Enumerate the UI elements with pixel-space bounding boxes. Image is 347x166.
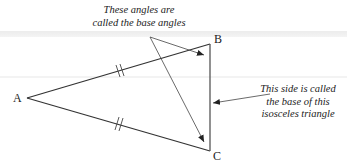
side-ab (27, 44, 210, 98)
arrow-to-angle-c (150, 37, 204, 142)
annotation-line: called the base angles (64, 17, 214, 30)
base-angles-annotation: These angles are called the base angles (64, 4, 214, 29)
annotation-line: This side is called (252, 83, 344, 96)
vertex-label-c: C (213, 149, 221, 164)
annotation-line: isosceles triangle (252, 108, 344, 121)
side-ac (27, 98, 210, 151)
annotation-line: the base of this (252, 96, 344, 109)
base-annotation: This side is called the base of this iso… (252, 83, 344, 121)
vertex-label-b: B (214, 32, 222, 47)
annotation-line: These angles are (64, 4, 214, 17)
vertex-label-a: A (13, 91, 22, 106)
